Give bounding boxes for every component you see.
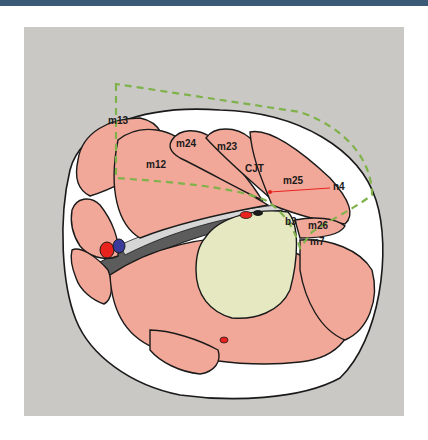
label-m7: m7 bbox=[310, 236, 325, 247]
label-cjt: CJT bbox=[245, 163, 264, 174]
vein-small-icon bbox=[253, 210, 263, 216]
label-m25: m25 bbox=[283, 175, 303, 186]
artery-lower-icon bbox=[220, 337, 228, 343]
label-n4: n4 bbox=[333, 181, 345, 192]
label-m26: m26 bbox=[308, 220, 328, 231]
anatomy-figure: m13 m24 m23 m12 CJT m25 n4 b3 m26 m7 bbox=[0, 0, 428, 440]
label-m24: m24 bbox=[176, 138, 196, 149]
label-m12: m12 bbox=[146, 159, 166, 170]
label-b3: b3 bbox=[285, 216, 297, 227]
label-m23: m23 bbox=[217, 141, 237, 152]
artery-small-icon bbox=[240, 212, 252, 219]
nerve-point-icon bbox=[268, 190, 272, 194]
artery-icon bbox=[100, 242, 114, 258]
vein-icon bbox=[113, 239, 125, 253]
label-m13: m13 bbox=[108, 115, 128, 126]
